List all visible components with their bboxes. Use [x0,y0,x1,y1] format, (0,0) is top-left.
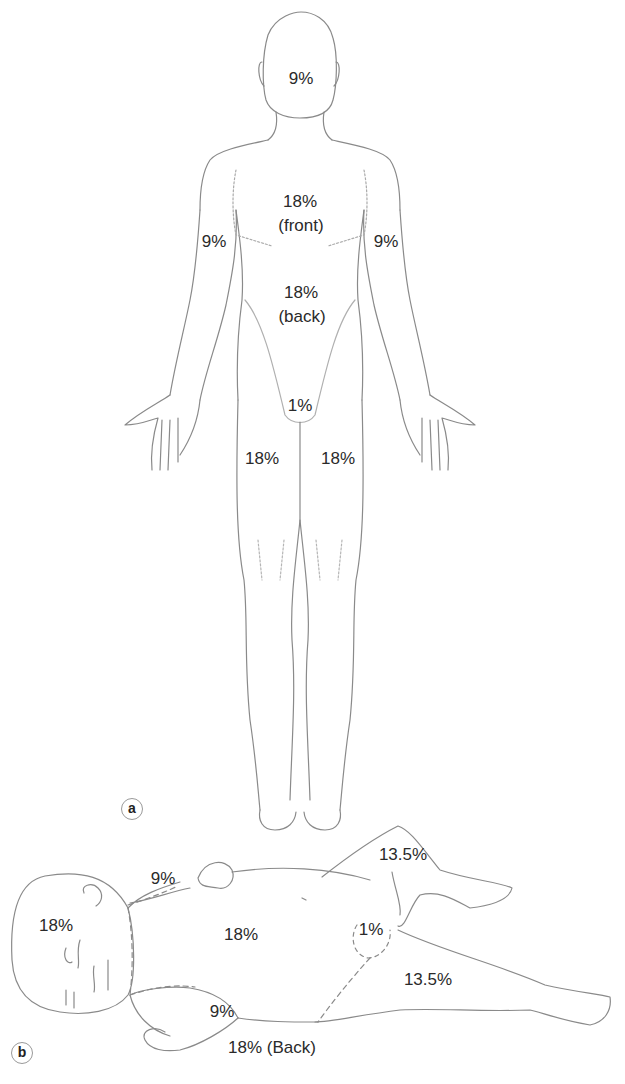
adult-trunk-back-note: (back) [278,307,325,327]
adult-trunk-front-note: (front) [278,216,323,236]
infant-lower-leg-label: 13.5% [404,970,452,990]
infant-lower-arm-label: 9% [210,1002,235,1022]
panel-b-tag: b [11,1042,33,1064]
infant-upper-arm-label: 9% [151,869,176,889]
adult-right-leg-label: 18% [321,449,355,469]
adult-head-label: 9% [289,69,314,89]
adult-trunk-front-pct: 18% [283,192,317,212]
adult-left-arm-label: 9% [202,232,227,252]
body-outline-art [0,0,625,1084]
adult-figure [125,12,475,830]
infant-head-outline [12,874,134,1014]
adult-left-leg-label: 18% [245,449,279,469]
adult-perineum-label: 1% [288,396,313,416]
infant-trunk-front-label: 18% [224,925,258,945]
infant-head-label: 18% [39,916,73,936]
infant-trunk-back-label: 18% (Back) [228,1038,316,1058]
infant-perineum-label: 1% [359,920,384,940]
adult-trunk-back-pct: 18% [284,283,318,303]
panel-a-tag: a [121,798,143,820]
adult-head-outline [263,12,336,118]
infant-upper-leg-label: 13.5% [379,845,427,865]
adult-right-arm-label: 9% [374,232,399,252]
infant-figure [12,826,611,1051]
